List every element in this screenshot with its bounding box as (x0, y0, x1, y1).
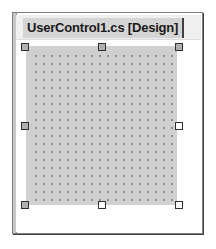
resize-handle-top-right[interactable] (175, 43, 183, 51)
design-surface-area (16, 40, 201, 232)
tab-usercontrol1-design[interactable]: UserControl1.cs [Design] (23, 18, 184, 38)
resize-handle-middle-right[interactable] (175, 122, 183, 130)
resize-handle-top-center[interactable] (98, 43, 106, 51)
resize-handle-bottom-right[interactable] (175, 201, 183, 209)
resize-handle-middle-left[interactable] (21, 122, 29, 130)
resize-handle-top-left[interactable] (21, 43, 29, 51)
resize-handle-bottom-center[interactable] (98, 201, 106, 209)
resize-handle-bottom-left[interactable] (21, 201, 29, 209)
usercontrol-surface[interactable] (30, 50, 173, 201)
designer-window: UserControl1.cs [Design] (12, 12, 203, 234)
document-tab-strip: UserControl1.cs [Design] (16, 15, 201, 40)
